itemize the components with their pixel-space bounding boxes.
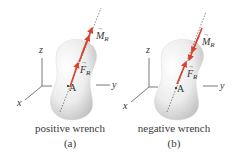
force-symbol: F (80, 65, 86, 75)
rigid-body-shape (50, 39, 96, 120)
panel-b (131, 12, 218, 120)
z-axis-label: z (39, 45, 43, 55)
caption-negative-wrench: negative wrench (122, 122, 226, 134)
moment-label: MR (202, 37, 215, 49)
coordinate-axes (25, 58, 52, 100)
force-label: FR (80, 65, 90, 77)
z-axis-label: z (146, 45, 150, 55)
force-subscript: R (193, 73, 197, 81)
force-symbol: F (187, 69, 193, 79)
x-axis (131, 87, 149, 102)
point-a-label: A (177, 84, 184, 94)
moment-label: MR (96, 31, 109, 43)
force-subscript: R (86, 69, 90, 77)
moment-symbol: M (202, 37, 210, 47)
force-label: FR (187, 69, 197, 81)
y-axis-label: y (112, 80, 116, 90)
sublabel-a: (a) (55, 137, 85, 149)
point-a-label: A (69, 83, 76, 93)
caption-positive-wrench: positive wrench (20, 122, 120, 134)
moment-subscript: R (210, 41, 214, 49)
y-axis-label: y (220, 81, 224, 91)
moment-symbol: M (96, 31, 104, 41)
x-axis (25, 86, 42, 100)
x-axis-label: x (17, 98, 21, 108)
sublabel-b: (b) (159, 137, 189, 149)
x-axis-label: x (123, 101, 127, 111)
moment-subscript: R (104, 35, 108, 43)
coordinate-axes (131, 58, 158, 102)
